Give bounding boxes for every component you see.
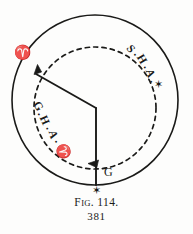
- caption-smallcaps: IG: [81, 198, 91, 208]
- page-number: 381: [0, 210, 193, 223]
- svg-text:♈: ♈: [55, 142, 72, 160]
- bottom-star-icon: ✶: [92, 184, 101, 196]
- outer-circle: [12, 15, 178, 185]
- gha-arrowhead: [34, 65, 42, 75]
- greenwich-label: G: [104, 165, 113, 179]
- caption-suffix: . 114.: [91, 196, 119, 208]
- figure-page: ✶ ✶ ♈ G S . H . A . G . H . A . ♈ FIG. 1…: [0, 0, 193, 234]
- figure-caption: FIG. 114.: [0, 196, 193, 209]
- caption-block: FIG. 114. 381: [0, 196, 193, 223]
- sha-arrowhead: [88, 160, 99, 168]
- aries-symbol-label: ♈: [14, 44, 31, 61]
